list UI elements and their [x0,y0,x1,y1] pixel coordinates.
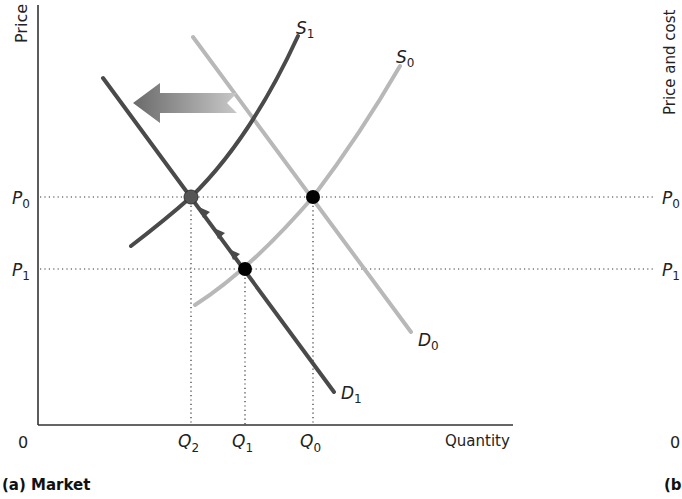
right-p1-label: P1 [662,260,680,283]
d1-label: D1 [341,383,362,406]
x-axis-label: Quantity [445,432,510,450]
d0-label: D0 [418,330,439,353]
q0-label: Q0 [300,431,321,455]
s1-label: S1 [296,18,314,41]
y-axis-label: Price [12,4,31,43]
right-p0-label: P0 [662,188,680,211]
adjustment-arrows [199,207,240,260]
equilibrium-point-p0-q2 [184,190,198,204]
right-origin-label: 0 [670,433,680,452]
s0-label: S0 [396,47,414,70]
right-y-axis-label: Price and cost [661,9,679,115]
demand-curve-d0 [193,37,411,332]
panel-caption-a: (a) Market [2,476,90,494]
supply-shift-arrow [133,83,237,123]
origin-label: 0 [18,433,28,452]
q1-label: Q1 [232,431,253,455]
equilibrium-point-p1-q1 [238,262,252,276]
p0-label: P0 [12,188,30,211]
equilibrium-point-p0-q0 [306,190,320,204]
p1-label: P1 [12,260,30,283]
q2-label: Q2 [178,431,199,455]
panel-caption-b: (b [664,476,682,494]
